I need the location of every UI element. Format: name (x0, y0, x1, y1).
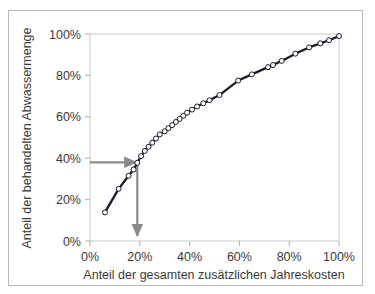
y-tick-label-0: 0% (63, 235, 81, 249)
x-tick-marks (90, 241, 339, 246)
data-point (139, 154, 144, 159)
x-tick-label-40: 40% (177, 250, 202, 264)
data-point (279, 58, 284, 63)
y-tick-marks (85, 34, 90, 241)
data-point (236, 78, 241, 83)
data-point (337, 34, 342, 39)
data-point (201, 101, 206, 106)
data-point (135, 160, 140, 165)
data-point (195, 104, 200, 109)
data-point (293, 51, 298, 56)
figure-frame: 100% 80% 60% 40% 20% 0% Anteil der behan… (8, 10, 363, 286)
data-point (142, 148, 147, 153)
x-tick-label-0: 0% (81, 250, 99, 264)
data-point (157, 132, 162, 137)
y-tick-label-100: 100% (49, 28, 81, 42)
x-tick-label-20: 20% (127, 250, 152, 264)
data-point (249, 72, 254, 77)
y-axis: 100% 80% 60% 40% 20% 0% Anteil der behan… (20, 27, 90, 248)
x-axis-title: Anteil der gesamten zusätzlichen Jahresk… (83, 268, 344, 282)
x-axis: 0% 20% 40% 60% 80% 100% Anteil der gesam… (81, 241, 355, 282)
y-axis-title: Anteil der behandelten Abwassermenge (20, 27, 34, 248)
data-point (271, 63, 276, 68)
y-tick-label-60: 60% (56, 110, 81, 124)
y-tick-label-20: 20% (56, 193, 81, 207)
y-tick-label-80: 80% (56, 69, 81, 83)
plot-frame (90, 34, 339, 241)
data-point (185, 110, 190, 115)
data-point (266, 65, 271, 70)
chart-canvas: 100% 80% 60% 40% 20% 0% Anteil der behan… (9, 11, 362, 285)
data-point (102, 210, 107, 215)
data-point (307, 45, 312, 50)
data-point (146, 144, 151, 149)
data-point (190, 107, 195, 112)
data-point (318, 41, 323, 46)
data-point (327, 38, 332, 43)
plot-area (90, 34, 339, 241)
data-point (153, 136, 158, 141)
data-point (126, 173, 131, 178)
data-point (150, 140, 155, 145)
data-point (207, 98, 212, 103)
x-tick-label-100: 100% (323, 250, 355, 264)
y-tick-label-40: 40% (56, 152, 81, 166)
data-point (116, 186, 121, 191)
data-point (131, 167, 136, 172)
x-tick-label-60: 60% (227, 250, 252, 264)
x-tick-label-80: 80% (277, 250, 302, 264)
data-point (217, 93, 222, 98)
